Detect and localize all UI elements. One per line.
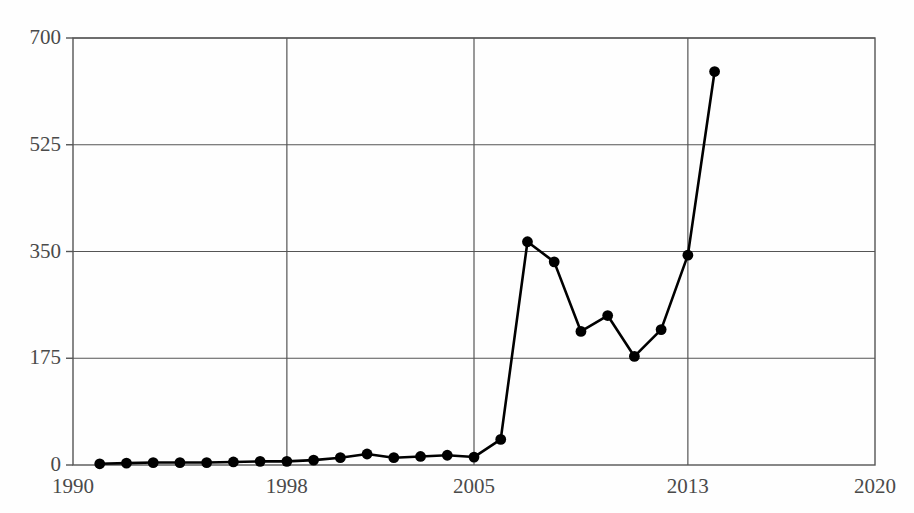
y-axis-tick-label: 350	[1, 241, 61, 262]
data-point-marker	[522, 236, 533, 247]
data-point-marker	[629, 351, 640, 362]
data-point-marker	[415, 451, 426, 462]
data-point-marker	[255, 456, 266, 467]
y-axis-tick-label: 525	[1, 134, 61, 155]
chart-container: 0175350525700 19901998200520132020	[0, 0, 914, 513]
data-line-path	[100, 72, 715, 464]
gridlines	[73, 38, 875, 465]
y-axis-tick-label: 700	[1, 27, 61, 48]
x-axis-tick-label: 1998	[247, 476, 327, 497]
data-point-marker	[335, 452, 346, 463]
data-point-marker	[175, 457, 186, 468]
data-point-marker	[281, 456, 292, 467]
data-point-marker	[388, 452, 399, 463]
data-point-marker	[228, 457, 239, 468]
line-chart-plot	[0, 0, 914, 513]
data-point-marker	[495, 434, 506, 445]
data-point-marker	[442, 450, 453, 461]
data-markers	[94, 66, 720, 469]
x-axis-tick-label: 1990	[33, 476, 113, 497]
data-point-marker	[656, 324, 667, 335]
x-axis-tick-label: 2013	[648, 476, 728, 497]
data-point-marker	[308, 455, 319, 466]
data-point-marker	[362, 449, 373, 460]
data-point-marker	[94, 458, 105, 469]
data-point-marker	[148, 457, 159, 468]
data-point-marker	[602, 310, 613, 321]
data-point-marker	[576, 326, 587, 337]
x-axis-tick-label: 2005	[434, 476, 514, 497]
data-point-marker	[121, 458, 132, 469]
data-point-marker	[682, 250, 693, 261]
y-axis-tick-label: 175	[1, 347, 61, 368]
data-point-marker	[201, 457, 212, 468]
data-point-marker	[469, 452, 480, 463]
data-point-marker	[709, 66, 720, 77]
x-axis-tick-label: 2020	[835, 476, 914, 497]
data-point-marker	[549, 256, 560, 267]
data-line	[100, 72, 715, 464]
y-axis-tick-label: 0	[1, 454, 61, 475]
